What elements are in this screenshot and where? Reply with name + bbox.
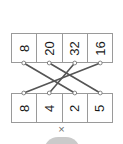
bottom-cell-0[interactable]: 8 bbox=[12, 94, 37, 122]
top-cell-3-value: 16 bbox=[93, 41, 106, 55]
bottom-cell-2[interactable]: 2 bbox=[63, 94, 88, 122]
bottom-rounded-shape bbox=[44, 137, 80, 144]
bottom-cell-1-value: 4 bbox=[43, 104, 56, 111]
top-cell-2[interactable]: 32 bbox=[63, 34, 88, 62]
top-cell-2-value: 32 bbox=[68, 41, 81, 55]
bottom-cell-3-value: 5 bbox=[93, 104, 106, 111]
top-cell-0[interactable]: 8 bbox=[12, 34, 37, 62]
bottom-number-row: 8 4 2 5 bbox=[11, 93, 113, 123]
top-cell-1[interactable]: 20 bbox=[37, 34, 62, 62]
top-cell-1-value: 20 bbox=[43, 41, 56, 55]
matching-diagram: 8 20 32 16 8 4 2 5 × bbox=[0, 0, 123, 144]
connector-line-0[interactable] bbox=[24, 63, 75, 93]
top-cell-3[interactable]: 16 bbox=[88, 34, 112, 62]
multiply-icon: × bbox=[0, 124, 123, 135]
connector-line-2[interactable] bbox=[49, 63, 75, 93]
bottom-cell-2-value: 2 bbox=[68, 104, 81, 111]
bottom-cell-0-value: 8 bbox=[18, 104, 31, 111]
connector-line-3[interactable] bbox=[24, 63, 101, 93]
bottom-cell-3[interactable]: 5 bbox=[88, 94, 112, 122]
top-cell-0-value: 8 bbox=[18, 44, 31, 51]
top-number-row: 8 20 32 16 bbox=[11, 33, 113, 63]
connector-line-1[interactable] bbox=[49, 63, 100, 93]
bottom-cell-1[interactable]: 4 bbox=[37, 94, 62, 122]
